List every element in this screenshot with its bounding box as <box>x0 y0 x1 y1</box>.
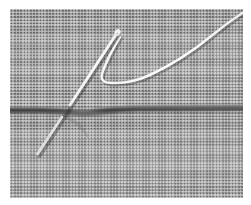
fabric-photo <box>10 9 243 198</box>
needle <box>38 28 122 156</box>
thread <box>102 11 243 85</box>
scene-overlay <box>10 9 243 198</box>
seam-line <box>10 105 243 115</box>
photo-figure: Close-up grayscale photograph of a sewin… <box>0 0 251 205</box>
